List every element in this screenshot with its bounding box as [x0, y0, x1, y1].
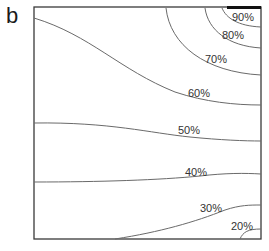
contour-label-50pct: 50% — [178, 124, 200, 136]
contour-label-70pct: 70% — [205, 53, 227, 65]
contour-label-30pct: 30% — [200, 202, 222, 214]
contour-lines — [34, 8, 261, 239]
contour-line-40pct — [34, 173, 261, 182]
contour-label-80pct: 80% — [222, 29, 244, 41]
contour-label-60pct: 60% — [188, 87, 210, 99]
contour-label-20pct: 20% — [231, 220, 253, 232]
contour-line-50pct — [34, 123, 261, 141]
contour-label-90pct: 90% — [232, 11, 254, 23]
contour-plot: 90%80%70%60%50%40%30%20% — [0, 0, 269, 251]
source-bar — [227, 6, 261, 9]
contour-label-40pct: 40% — [185, 166, 207, 178]
contour-labels: 90%80%70%60%50%40%30%20% — [178, 11, 254, 232]
